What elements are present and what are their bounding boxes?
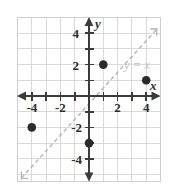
coordinate-graph-figure: y = x	[0, 0, 171, 192]
x-tick-label-neg2: -2	[55, 100, 66, 115]
y-axis-arrow-down	[85, 173, 94, 182]
y-axis-label: y	[93, 16, 101, 31]
x-tick-label-pos2: 2	[114, 100, 121, 115]
data-point-1-2	[99, 60, 108, 69]
y-tick-label-neg4: -4	[71, 152, 82, 167]
coordinate-plane-svg: y = x	[0, 0, 171, 192]
x-tick-label-neg4: -4	[26, 100, 37, 115]
y-tick-label-neg2: -2	[71, 120, 82, 135]
data-point-0-neg3	[85, 139, 94, 148]
line-equation-label: y = x	[122, 58, 150, 72]
y-axis-arrow-up	[85, 17, 94, 26]
y-tick-label-pos2: 2	[73, 58, 80, 73]
y-tick-label-pos4: 4	[73, 26, 80, 41]
data-point-4-1	[142, 76, 151, 85]
data-point-neg4-neg2	[28, 123, 37, 132]
x-axis-arrow-left	[17, 92, 26, 101]
axes	[17, 17, 161, 182]
x-tick-label-pos4: 4	[143, 100, 150, 115]
